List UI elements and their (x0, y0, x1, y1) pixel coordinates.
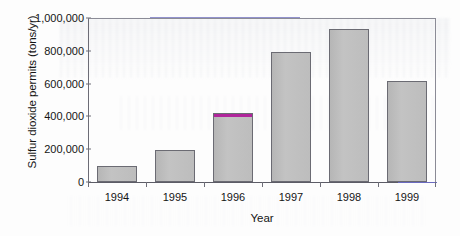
bar-1995 (155, 150, 195, 182)
bar-1999 (387, 81, 427, 182)
bar-1996 (213, 113, 253, 182)
y-tick-label: 400,000 (18, 111, 84, 122)
y-axis-tick-labels: 0200,000400,000600,000800,0001,000,000 (18, 0, 84, 236)
x-tick-label-1994: 1994 (87, 191, 147, 203)
y-tick-label: 1,000,000 (18, 13, 84, 24)
x-tick-label-1999: 1999 (377, 191, 437, 203)
y-tick-label: 600,000 (18, 78, 84, 89)
x-tick-label-1997: 1997 (261, 191, 321, 203)
y-tick-label: 0 (18, 177, 84, 188)
x-tick-mark (320, 182, 321, 187)
bar-1997 (271, 52, 311, 182)
x-tick-label-1995: 1995 (145, 191, 205, 203)
y-tick-label: 200,000 (18, 144, 84, 155)
x-tick-mark (146, 182, 147, 187)
x-tick-label-1996: 1996 (203, 191, 263, 203)
x-tick-mark (204, 182, 205, 187)
bar-series (88, 18, 436, 182)
x-tick-mark (262, 182, 263, 187)
bar-chart-figure: Sulfur dioxide permits (tons/yr) 0200,00… (0, 0, 460, 236)
x-tick-mark (435, 182, 436, 187)
bar-1994 (97, 166, 137, 182)
x-axis-title: Year (88, 212, 436, 224)
x-tick-mark (88, 182, 89, 187)
y-tick-label: 800,000 (18, 45, 84, 56)
bar-1998 (329, 29, 369, 182)
x-tick-label-1998: 1998 (319, 191, 379, 203)
x-axis-tick-labels: 199419951996199719981999 (88, 182, 436, 236)
x-tick-mark (378, 182, 379, 187)
bar-highlight-cap (213, 113, 253, 117)
